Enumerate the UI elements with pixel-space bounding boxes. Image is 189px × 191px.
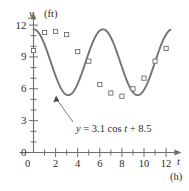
data-point [31,48,35,52]
y-tick-label: 12 [11,20,27,31]
equation-eq: = 3.1 cos [81,123,125,134]
x-tick-label: 0 [21,159,35,170]
data-point [87,59,91,63]
data-point [153,59,157,63]
callout-leader-line [58,101,73,122]
x-tick-label: 6 [93,159,107,170]
x-tick-label: 2 [49,159,63,170]
data-point [120,94,124,98]
data-point [98,82,102,86]
y-axis-name: y [29,9,34,20]
data-point [54,29,58,33]
y-tick-label: 3 [11,115,27,126]
equation-annotation: y = 3.1 cos t + 8.5 [76,124,151,135]
x-axis-name: t [177,157,180,168]
data-point [142,76,146,80]
equation-rhs: + 8.5 [127,123,151,134]
figure-trig-regression: y (ft) t (h) y = 3.1 cos t + 8.5 036912 … [0,0,189,191]
data-point [42,30,46,34]
x-tick-label: 4 [71,159,85,170]
y-axis-unit: (ft) [44,9,57,20]
x-axis-unit: (h) [170,172,182,183]
data-point [76,50,80,54]
y-tick-label: 9 [11,51,27,62]
x-tick-label: 8 [115,159,129,170]
data-point [164,46,168,50]
x-tick-label: 12 [159,159,173,170]
y-tick-label: 0 [11,147,27,158]
data-point [131,87,135,91]
y-tick-label: 6 [11,83,27,94]
x-axis-arrowhead [174,150,181,156]
x-tick-label: 10 [137,159,151,170]
data-point [65,33,69,37]
data-point [109,91,113,95]
